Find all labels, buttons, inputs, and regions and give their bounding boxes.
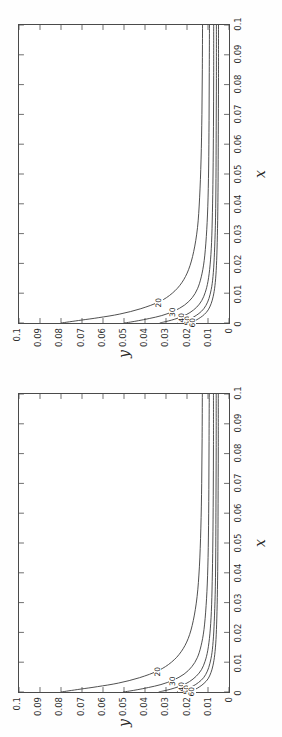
y-tick-label: 0.03 <box>160 697 170 737</box>
y-tick-label: 0.09 <box>33 328 43 368</box>
y-tick-label: 0.02 <box>182 328 192 368</box>
y-tick-label: 0.03 <box>160 328 170 368</box>
y-tick-label: 0.02 <box>182 697 192 737</box>
y-tick-label: 0.1 <box>12 328 22 368</box>
y-tick-label: 0.06 <box>97 328 107 368</box>
figure-page: Unstructured mesh 00.010.020.030.040.050… <box>0 0 282 737</box>
y-tick-label: 0.1 <box>12 697 22 737</box>
y-tick-label: 0.04 <box>139 328 149 368</box>
plot-frame <box>18 24 230 324</box>
y-tick-label: 0.06 <box>97 697 107 737</box>
contour-label: 20 <box>154 666 162 678</box>
plot-frame <box>18 393 230 693</box>
y-tick-label: 0 <box>224 328 234 368</box>
y-axis-label: y <box>116 703 132 737</box>
y-tick-label: 0.04 <box>139 697 149 737</box>
contour-label: 30 <box>169 306 177 318</box>
y-tick-label: 0.01 <box>203 697 213 737</box>
x-tick-label: 0.1 <box>233 373 243 413</box>
y-tick-label: 0.08 <box>54 328 64 368</box>
x-axis-label: x <box>252 393 268 693</box>
x-tick-label: 0.1 <box>233 4 243 44</box>
rotated-plot-unstructured: Unstructured mesh 00.010.020.030.040.050… <box>0 0 282 368</box>
x-axis-label: x <box>252 24 268 324</box>
contour-label: 60 <box>188 686 196 698</box>
rotated-plot-structured: Structured mesh 00.010.020.030.040.050.0… <box>0 369 282 737</box>
y-tick-label: 0.08 <box>54 697 64 737</box>
y-tick-label: 0.07 <box>76 328 86 368</box>
y-tick-label: 0 <box>224 697 234 737</box>
panel-unstructured: Unstructured mesh 00.010.020.030.040.050… <box>0 0 282 368</box>
contour-lines <box>19 394 229 692</box>
contour-lines <box>19 25 229 323</box>
y-tick-label: 0.07 <box>76 697 86 737</box>
contour-label: 30 <box>169 675 177 687</box>
contour-label: 60 <box>189 317 197 329</box>
panel-structured: Structured mesh 00.010.020.030.040.050.0… <box>0 369 282 737</box>
y-axis-label: y <box>116 334 132 374</box>
y-tick-label: 0.01 <box>203 328 213 368</box>
y-tick-label: 0.09 <box>33 697 43 737</box>
contour-label: 20 <box>155 297 163 309</box>
